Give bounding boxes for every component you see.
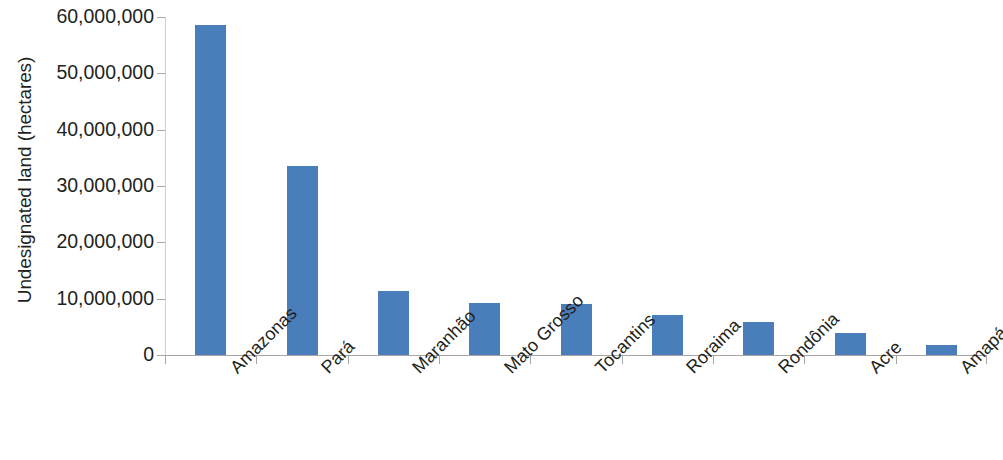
bar [835,333,866,355]
y-axis-tick-label: 0 [24,345,154,365]
bar [378,291,409,355]
x-axis-category-label: Acre [866,364,879,377]
x-axis-tick-marks [165,356,987,364]
x-axis-category-label: Roraima [683,364,696,377]
x-axis-category-label: Tocantins [592,364,605,377]
x-axis-category-label: Rondônia [775,364,788,377]
y-axis-tick-label: 30,000,000 [24,176,154,196]
x-axis-category-label: Pará [318,364,331,377]
x-axis-tick-mark [165,356,166,364]
y-axis-tick-label: 20,000,000 [24,232,154,252]
y-axis-tick-label: 50,000,000 [24,63,154,83]
bar [469,303,500,355]
y-axis-tick-label: 60,000,000 [24,7,154,27]
y-axis-tick-labels: 010,000,00020,000,00030,000,00040,000,00… [22,0,154,460]
bar [743,322,774,355]
y-axis-tick-label: 40,000,000 [24,120,154,140]
bar-chart: Undesignated land (hectares) 010,000,000… [0,0,1003,460]
x-axis-category-label: Amazonas [227,364,240,377]
x-axis-category-label: Maranhão [409,364,422,377]
x-axis-category-label: Mato Grosso [501,364,514,377]
x-axis-category-label: Amapá [957,364,970,377]
bar [195,25,226,355]
y-axis-tick-label: 10,000,000 [24,289,154,309]
bar [926,345,957,355]
x-axis-category-labels: AmazonasParáMaranhãoMato GrossoTocantins… [165,364,1003,460]
